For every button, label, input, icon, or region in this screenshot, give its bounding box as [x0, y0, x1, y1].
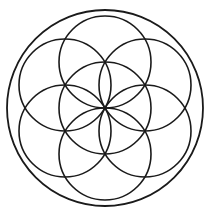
seed-of-life-figure: Seed of Life: [0, 0, 210, 216]
seed-of-life-svg: Seed of Life: [0, 0, 210, 216]
